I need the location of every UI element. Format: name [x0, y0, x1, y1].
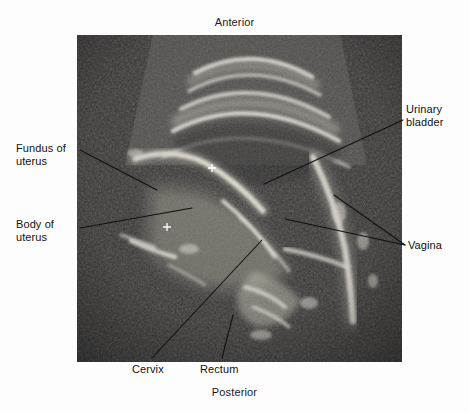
label-urinary-bladder: Urinary bladder — [406, 103, 443, 128]
label-vagina: Vagina — [408, 239, 442, 252]
ultrasound-scan-graphic — [77, 35, 402, 362]
label-rectum: Rectum — [200, 363, 239, 376]
ultrasound-figure: Anterior Posterior — [0, 0, 469, 412]
orientation-label-posterior: Posterior — [0, 386, 469, 398]
orientation-label-anterior: Anterior — [0, 16, 469, 28]
label-cervix: Cervix — [132, 363, 164, 376]
label-fundus-of-uterus: Fundus of uterus — [16, 142, 66, 167]
label-body-of-uterus: Body of uterus — [16, 218, 54, 243]
ultrasound-scan-image — [77, 35, 402, 362]
